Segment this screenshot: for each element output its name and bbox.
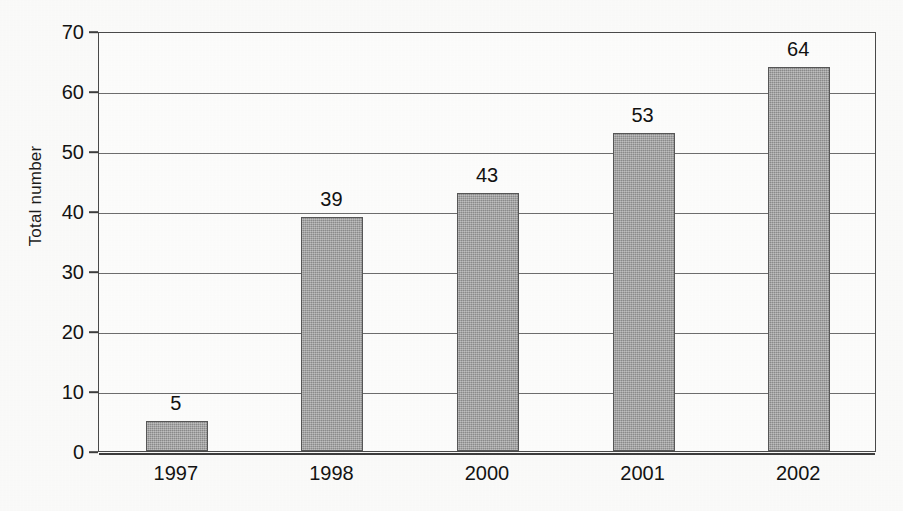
y-axis-tick-mark [89, 151, 98, 153]
bar [457, 193, 519, 451]
x-axis-tick-label: 2000 [465, 462, 510, 485]
bar [613, 133, 675, 451]
y-axis-tick-label: 20 [44, 321, 84, 344]
gridline [99, 93, 875, 94]
y-axis-tick-label: 70 [44, 21, 84, 44]
bar-value-label: 64 [787, 38, 809, 61]
y-axis-tick-label: 0 [44, 441, 84, 464]
y-axis-tick-mark [89, 91, 98, 93]
y-axis-tick-label: 10 [44, 381, 84, 404]
y-axis-tick-label: 40 [44, 201, 84, 224]
y-axis-tick-mark [89, 271, 98, 273]
y-axis-title: Total number [26, 131, 46, 261]
bar [146, 421, 208, 451]
y-axis-tick-label: 50 [44, 141, 84, 164]
bar [301, 217, 363, 451]
y-axis-tick-label: 30 [44, 261, 84, 284]
y-axis-tick-mark [89, 331, 98, 333]
x-axis-tick-label: 2001 [620, 462, 665, 485]
axis-baseline [99, 453, 875, 455]
x-axis-tick-label: 2002 [776, 462, 821, 485]
plot-area [98, 32, 876, 452]
y-axis-tick-label: 60 [44, 81, 84, 104]
bar-value-label: 43 [476, 164, 498, 187]
bar-value-label: 53 [631, 104, 653, 127]
y-axis-tick-mark [89, 211, 98, 213]
x-axis-tick-label: 1998 [309, 462, 354, 485]
y-axis-tick-mark [89, 451, 98, 453]
bar-value-label: 5 [170, 392, 181, 415]
x-axis-tick-label: 1997 [154, 462, 199, 485]
y-axis-tick-mark [89, 31, 98, 33]
bar-value-label: 39 [320, 188, 342, 211]
bar-chart-figure: Total number 010203040506070 539435364 1… [0, 0, 903, 511]
y-axis-tick-mark [89, 391, 98, 393]
bar [768, 67, 830, 451]
gridline [99, 153, 875, 154]
